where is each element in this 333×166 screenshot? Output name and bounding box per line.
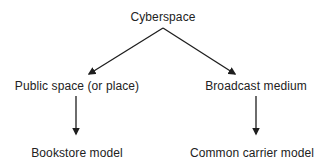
- node-cyberspace: Cyberspace: [130, 10, 195, 24]
- node-public-space: Public space (or place): [15, 79, 139, 93]
- arrow-cyberspace-to-broadcast-medium: [163, 28, 235, 74]
- node-bookstore-model: Bookstore model: [31, 146, 123, 160]
- node-broadcast-medium: Broadcast medium: [205, 79, 307, 93]
- arrow-cyberspace-to-public-space: [89, 28, 163, 74]
- node-common-carrier-model: Common carrier model: [190, 146, 314, 160]
